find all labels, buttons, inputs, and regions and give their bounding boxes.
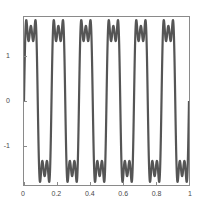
ytick-mark-neg1 [24,146,27,147]
xtick-mark-04 [90,182,91,185]
ytick-label-1: 1 [6,52,10,60]
xtick-mark-08 [156,182,157,185]
ytick-label-neg1: -1 [4,142,10,150]
xtick-mark-1 [189,182,190,185]
plot-area [23,16,190,186]
waveform-curve [24,17,189,185]
ytick-mark-0 [24,101,27,102]
ytick-mark-1 [24,56,27,57]
xtick-label-02: 0.2 [52,190,62,198]
xtick-mark-02 [57,182,58,185]
xtick-label-04: 0.4 [85,190,95,198]
ytick-label-0: 0 [6,97,10,105]
xtick-mark-06 [123,182,124,185]
xtick-label-0: 0 [21,190,25,198]
xtick-label-08: 0.8 [152,190,162,198]
xtick-mark-0 [24,182,25,185]
xtick-label-1: 1 [188,190,192,198]
figure-canvas: 0 0.2 0.4 0.6 0.8 1 1 0 -1 [0,0,205,208]
xtick-label-06: 0.6 [118,190,128,198]
